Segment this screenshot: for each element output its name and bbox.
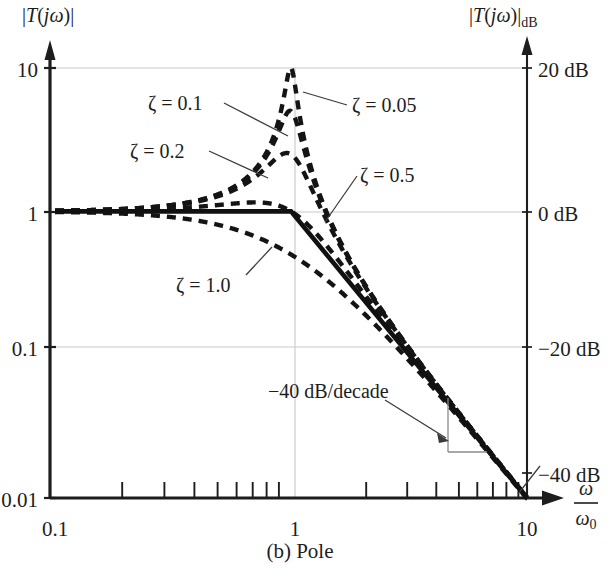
leader-zeta-0.5 <box>325 176 357 222</box>
annotation-40db-decade: −40 dB/decade <box>268 380 389 402</box>
y-tick-label-10: 10 <box>17 58 38 82</box>
right-axis-title-omega: ω <box>496 4 510 26</box>
left-axis-title: |T(jω)| <box>22 4 74 27</box>
curve-zeta-0.1 <box>55 111 527 498</box>
x-axis-title-den-omega: ω <box>575 507 589 529</box>
curve-zeta-0.5 <box>55 202 527 497</box>
y-tick-label-0.1: 0.1 <box>12 337 38 361</box>
figure-caption: (b) Pole <box>266 539 333 563</box>
x-axis-minor-ticks <box>122 482 518 498</box>
y-tick-label-right-20db: 20 dB <box>538 58 589 82</box>
x-axis-arrow <box>542 491 564 506</box>
label-zeta-0.1: ζ = 0.1 <box>148 92 203 115</box>
curve-zeta-0.05 <box>55 68 527 497</box>
gridlines <box>50 68 527 498</box>
y-tick-label-right-0db: 0 dB <box>538 202 578 226</box>
x-axis-title-den-sub: 0 <box>590 517 597 532</box>
right-axis-title: |T(jω)|dB <box>469 4 538 30</box>
label-zeta-0.5: ζ = 0.5 <box>360 164 415 187</box>
curve-zeta-0.2 <box>55 153 527 497</box>
label-zeta-1.0: ζ = 1.0 <box>176 274 231 297</box>
x-tick-label-1: 1 <box>290 517 301 541</box>
leader-40db-arrowhead <box>437 433 449 443</box>
right-axis-title-close: ) <box>511 4 518 27</box>
leader-zeta-0.05 <box>303 92 347 105</box>
curve-zeta-1.0 <box>55 212 527 498</box>
x-axis-title-denominator: ω0 <box>575 507 596 532</box>
y-axis-left-arrow <box>45 40 56 60</box>
right-axis-title-sub: dB <box>521 15 537 30</box>
x-tick-label-10: 10 <box>517 517 538 541</box>
x-tick-label-0.1: 0.1 <box>42 517 68 541</box>
zeta-curves <box>55 68 527 498</box>
leader-40db <box>385 400 446 438</box>
left-axis-title-close: ) <box>64 4 71 27</box>
leader-lines <box>209 92 540 494</box>
leader-zeta-1.0 <box>246 247 272 275</box>
y-tick-label-1: 1 <box>28 202 39 226</box>
bode-magnitude-figure: 10 1 0.1 0.01 20 dB 0 dB −20 dB −40 dB 0… <box>0 0 615 572</box>
label-zeta-0.05: ζ = 0.05 <box>352 94 417 117</box>
leader-m40db <box>518 466 540 494</box>
leader-zeta-0.1 <box>224 103 288 136</box>
x-axis-title-numerator: ω <box>579 477 593 499</box>
axes <box>45 36 565 506</box>
y-axis-right-arrow <box>522 36 533 55</box>
y-tick-label-0.01: 0.01 <box>1 488 38 512</box>
y-tick-label-right-m20db: −20 dB <box>538 337 601 361</box>
left-axis-title-omega: ω <box>49 4 63 26</box>
bode-plot-svg: 10 1 0.1 0.01 20 dB 0 dB −20 dB −40 dB 0… <box>0 0 615 572</box>
left-axis-title-bar2: | <box>70 4 74 27</box>
label-zeta-0.2: ζ = 0.2 <box>130 140 185 163</box>
